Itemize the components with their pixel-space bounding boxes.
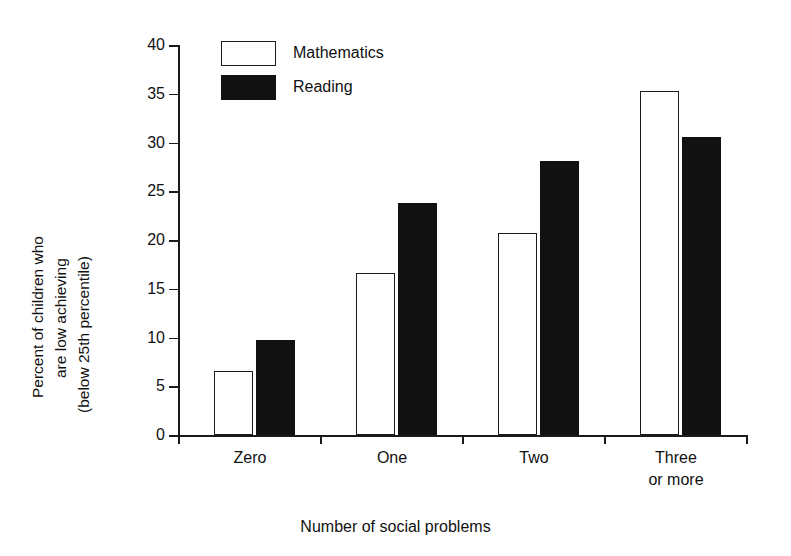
bar-reading-one[interactable] — [398, 203, 437, 435]
legend-label-reading: Reading — [293, 78, 353, 96]
legend-label-mathematics: Mathematics — [293, 44, 384, 62]
x-tick-4 — [746, 435, 748, 444]
y-tick-30 — [169, 143, 178, 145]
y-tick-label-10: 10 — [135, 329, 165, 347]
y-tick-15 — [169, 289, 178, 291]
y-axis-title-line-1: Percent of children who — [29, 236, 47, 398]
y-tick-label-25: 25 — [135, 182, 165, 200]
y-tick-label-15: 15 — [135, 280, 165, 298]
x-category-label-three-line2: or more — [605, 469, 747, 491]
y-tick-label-0: 0 — [135, 426, 165, 444]
bar-reading-three-or-more[interactable] — [682, 137, 721, 435]
y-axis-line — [178, 45, 180, 435]
bar-chart-figure: Percent of children who are low achievin… — [0, 0, 791, 556]
x-category-label-zero: Zero — [179, 447, 321, 469]
y-tick-40 — [169, 45, 178, 47]
x-category-label-two-line1: Two — [463, 447, 605, 469]
y-tick-label-5: 5 — [135, 377, 165, 395]
x-category-label-three-line1: Three — [605, 447, 747, 469]
bar-mathematics-two[interactable] — [498, 233, 537, 435]
y-axis-title-line-2: are low achieving — [52, 258, 70, 378]
y-tick-label-40: 40 — [135, 36, 165, 54]
bar-mathematics-zero[interactable] — [214, 371, 253, 435]
legend-item-reading[interactable]: Reading — [221, 70, 384, 104]
x-tick-2 — [462, 435, 464, 444]
y-axis-title-line-3: (below 25th percentile) — [75, 256, 93, 413]
y-tick-0 — [169, 435, 178, 437]
bar-mathematics-one[interactable] — [356, 273, 395, 435]
x-category-label-one: One — [321, 447, 463, 469]
bar-reading-two[interactable] — [540, 161, 579, 435]
y-tick-label-30: 30 — [135, 134, 165, 152]
legend: Mathematics Reading — [221, 36, 384, 104]
y-tick-label-20: 20 — [135, 231, 165, 249]
y-tick-25 — [169, 191, 178, 193]
x-tick-3 — [604, 435, 606, 444]
y-tick-35 — [169, 94, 178, 96]
legend-swatch-reading-icon — [221, 75, 276, 100]
bar-mathematics-three-or-more[interactable] — [640, 91, 679, 435]
x-axis-title: Number of social problems — [0, 518, 791, 536]
x-tick-0 — [178, 435, 180, 444]
y-tick-5 — [169, 386, 178, 388]
y-tick-label-35: 35 — [135, 85, 165, 103]
x-category-label-one-line1: One — [321, 447, 463, 469]
x-category-label-zero-line1: Zero — [179, 447, 321, 469]
bar-reading-zero[interactable] — [256, 340, 295, 435]
x-category-label-two: Two — [463, 447, 605, 469]
y-tick-20 — [169, 240, 178, 242]
x-tick-1 — [320, 435, 322, 444]
x-category-label-three-or-more: Three or more — [605, 447, 747, 491]
legend-swatch-mathematics-icon — [221, 41, 276, 66]
y-tick-10 — [169, 338, 178, 340]
legend-item-mathematics[interactable]: Mathematics — [221, 36, 384, 70]
